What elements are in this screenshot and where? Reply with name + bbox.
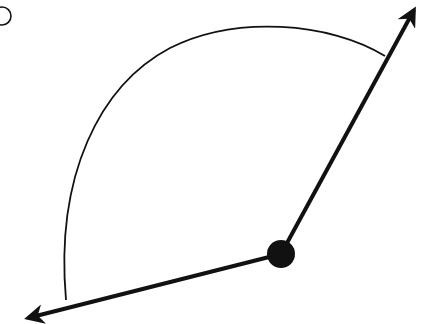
lower-left-ray (28, 254, 281, 318)
upper-right-ray (281, 10, 414, 254)
vertex-dot (267, 240, 295, 268)
angle-arc (64, 27, 385, 300)
angle-diagram (0, 0, 429, 324)
label-circle (0, 7, 11, 25)
